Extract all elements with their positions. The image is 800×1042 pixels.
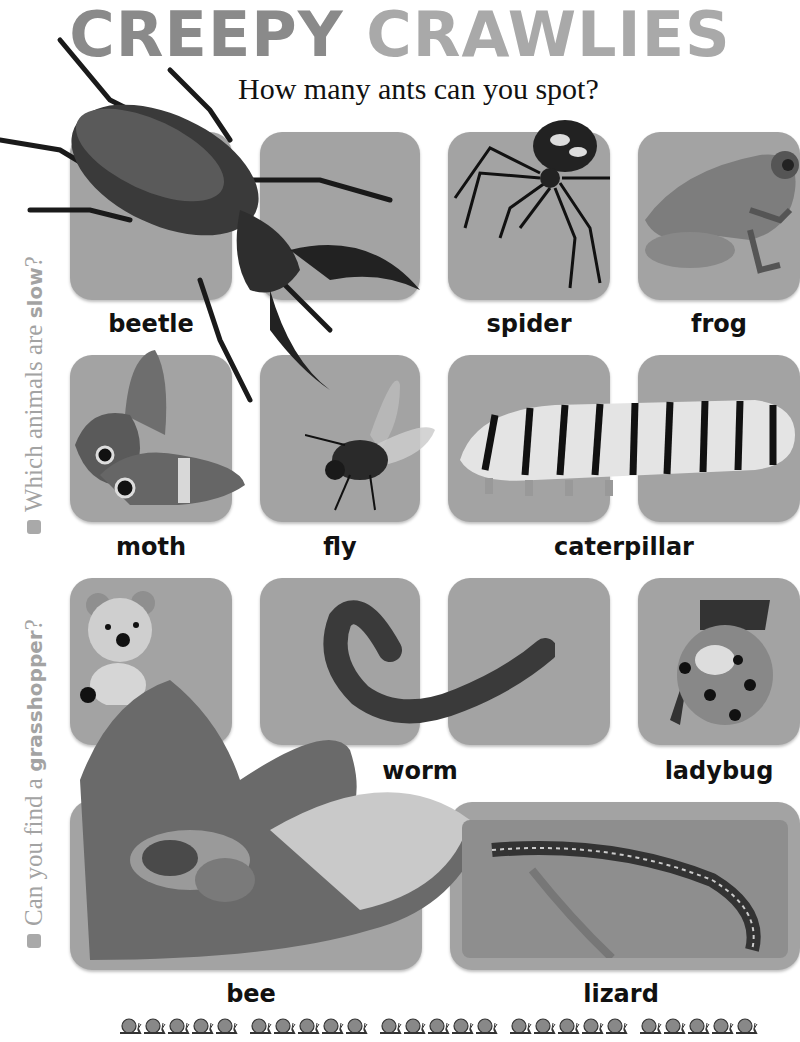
snail-icon [580,1016,604,1040]
snail-icon [734,1016,758,1040]
label-lizard: lizard [540,980,702,1008]
snail-icon [556,1016,580,1040]
snail-border [118,1016,758,1040]
label-moth: moth [70,533,232,561]
snail-icon [604,1016,628,1040]
snail-group [378,1016,498,1040]
caterpillar-image [455,390,800,500]
snail-icon [450,1016,474,1040]
frog-image [640,140,800,290]
snail-icon [508,1016,532,1040]
snail-group [638,1016,758,1040]
bullet-square-icon [27,520,41,534]
snail-icon [296,1016,320,1040]
snail-icon [272,1016,296,1040]
bullet-square-icon [27,934,41,948]
lizard-image [462,820,788,958]
snail-icon [320,1016,344,1040]
snail-icon [118,1016,142,1040]
snail-group [248,1016,368,1040]
moth-image [70,345,245,505]
label-beetle: beetle [70,310,232,338]
label-frog: frog [638,310,800,338]
snail-icon [166,1016,190,1040]
snail-icon [190,1016,214,1040]
label-ladybug: ladybug [638,757,800,785]
snail-icon [344,1016,368,1040]
ladybug-image [670,600,780,730]
snail-group [508,1016,628,1040]
snail-icon [426,1016,450,1040]
label-spider: spider [448,310,610,338]
snail-icon [248,1016,272,1040]
label-fly: fly [260,533,420,561]
snail-group [118,1016,238,1040]
snail-icon [214,1016,238,1040]
spider-image [450,118,610,293]
snail-icon [402,1016,426,1040]
snail-icon [378,1016,402,1040]
side-prompt-grasshopper: Can you find a grasshopper? [20,619,48,948]
bee-flower-image [70,660,490,975]
snail-icon [532,1016,556,1040]
label-worm: worm [340,757,500,785]
snail-icon [474,1016,498,1040]
snail-icon [710,1016,734,1040]
snail-icon [638,1016,662,1040]
label-caterpillar: caterpillar [448,533,800,561]
label-bee: bee [170,980,332,1008]
snail-icon [686,1016,710,1040]
snail-icon [142,1016,166,1040]
fly-image [305,365,440,515]
snail-icon [662,1016,686,1040]
